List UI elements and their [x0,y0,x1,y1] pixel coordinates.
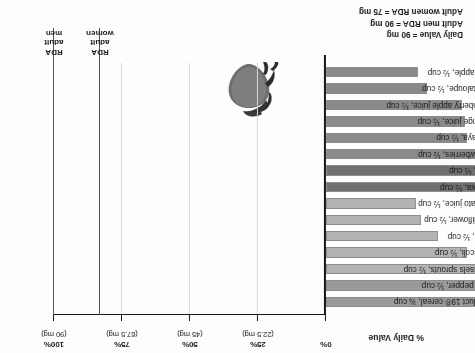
bar-label: Product 19® cereal, ¾ cup [394,295,475,309]
tick-25 [257,314,258,321]
bar-label: Orange juice, ½ cup [418,114,475,128]
gridline-50 [189,63,190,315]
chart-footnotes: Daily Value = 90 mg Adult men RDA = 90 m… [359,6,463,41]
bar-pineapple[interactable] [326,67,418,77]
gridline-25 [257,63,258,315]
tick-label-50: 50% (45 mg) [158,329,222,349]
bar-label: Cauliflower, ½ cup [424,213,475,227]
tick-label-75: 75% (67.5 mg) [90,329,154,349]
bar-label: Tomato juice, ½ cup [418,196,475,210]
tick-label-25: 25% (22.5 mg) [226,329,290,349]
bar-label: Papaya, ½ cup [436,131,475,145]
bar-label: Guava, ½ cup [440,180,475,194]
x-axis-title: % Daily Value [369,333,424,343]
tick-50 [189,314,190,321]
chart-figure: 0% 25% (22.5 mg) 50% (45 mg) 75% (67.5 m… [0,0,475,353]
tick-label-100: 100% (90 mg) [22,329,86,349]
bar-cantaloupe[interactable] [326,83,427,93]
bar-label: Broccoli, ½ cup [435,245,475,259]
rda-note-adult-women: RDA adult women [70,29,130,58]
gridline-75 [121,63,122,315]
tick-label-0: 0% [294,339,358,349]
bar-label: Red pepper, ½ cup [422,278,475,292]
bar-label: Kale, ½ cup [448,229,475,243]
tick-100 [53,314,54,321]
axis-top-rule [54,314,326,315]
bar-cauliflower[interactable] [326,215,421,225]
bar-label: Brussels sprouts, ½ cup [404,262,475,276]
tick-75 [121,314,122,321]
bar-label: Cranberry apple juice, ½ cup [386,98,475,112]
bar-kale[interactable] [326,231,438,241]
footnote-daily-value: Daily Value = 90 mg [359,29,463,41]
rda-line-adult-men [53,28,54,315]
bar-label: Kiwi, ½ cup [449,163,475,177]
bar-tomato-juice[interactable] [326,198,416,208]
tick-0 [325,314,326,321]
footnote-adult-men-rda: Adult men RDA = 90 mg [359,18,463,30]
bar-label: Strawberries, ½ cup [418,147,475,161]
rda-line-adult-women [99,28,100,315]
bar-label: Pineapple, ½ cup [428,65,475,79]
footnote-adult-women-rda: Adult women RDA = 75 mg [359,6,463,18]
bar-label: Cantaloupe, ½ cup [422,81,475,95]
plot-area: 0% 25% (22.5 mg) 50% (45 mg) 75% (67.5 m… [54,55,326,309]
